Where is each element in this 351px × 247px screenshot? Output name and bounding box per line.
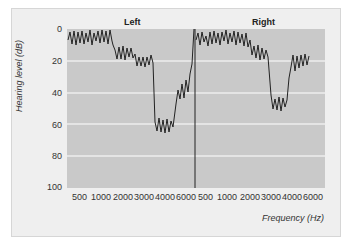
x-tick-left-1000: 1000 [91,192,111,202]
x-tick-left-4000: 4000 [155,192,175,202]
x-axis-label: Frequency (Hz) [262,213,324,223]
x-tick-left-500: 500 [72,192,87,202]
x-tick-right-4000: 4000 [282,192,302,202]
plot-svg [0,0,351,247]
x-tick-right-6000: 6000 [303,192,323,202]
x-tick-right-2000: 2000 [240,192,260,202]
x-tick-left-2000: 2000 [113,192,133,202]
x-tick-right-500: 500 [198,192,213,202]
x-tick-left-6000: 6000 [176,192,196,202]
plot-area [67,29,325,188]
x-tick-right-1000: 1000 [217,192,237,202]
x-tick-right-3000: 3000 [261,192,281,202]
x-tick-left-3000: 3000 [134,192,154,202]
